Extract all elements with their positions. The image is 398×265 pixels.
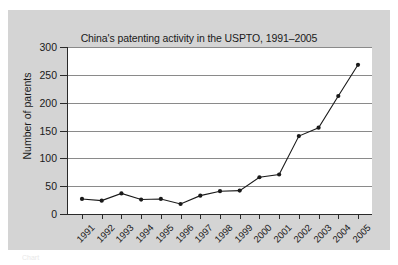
x-axis-tick-label: 2000 xyxy=(251,222,274,245)
x-axis-tick xyxy=(181,214,182,219)
data-point-marker xyxy=(218,189,222,193)
x-axis-tick-label: 2004 xyxy=(330,222,353,245)
y-axis-tick-label: 250 xyxy=(39,69,57,81)
data-point-marker xyxy=(257,175,261,179)
figure-caption: Chart xyxy=(22,254,322,261)
series-line xyxy=(82,65,358,204)
x-axis-tick xyxy=(161,214,162,219)
y-axis-tick xyxy=(60,186,67,187)
x-axis-tick-label: 1995 xyxy=(153,222,176,245)
x-axis-tick-label: 1999 xyxy=(232,222,255,245)
x-axis-tick-label: 2001 xyxy=(271,222,294,245)
x-axis-tick xyxy=(299,214,300,219)
x-axis-tick xyxy=(319,214,320,219)
y-axis-tick xyxy=(60,47,67,48)
data-point-marker xyxy=(119,191,123,195)
y-axis-tick xyxy=(60,103,67,104)
plot-area: 050100150200250300 199119921993199419951… xyxy=(67,47,372,215)
y-axis-tick-label: 50 xyxy=(45,180,57,192)
x-axis-tick-label: 1997 xyxy=(192,222,215,245)
chart-title: China's patenting activity in the USPTO,… xyxy=(8,32,390,44)
y-axis-tick-label: 0 xyxy=(51,208,57,220)
data-series-group xyxy=(68,47,372,214)
data-point-marker xyxy=(139,197,143,201)
x-axis-tick xyxy=(102,214,103,219)
x-axis-tick xyxy=(358,214,359,219)
x-axis-tick xyxy=(240,214,241,219)
x-axis-tick xyxy=(279,214,280,219)
x-axis-tick-label: 1996 xyxy=(173,222,196,245)
x-axis-tick xyxy=(220,214,221,219)
y-axis-tick xyxy=(60,75,67,76)
data-point-marker xyxy=(178,202,182,206)
y-axis-tick xyxy=(60,131,67,132)
y-axis-tick xyxy=(60,214,67,215)
data-point-marker xyxy=(277,172,281,176)
x-axis-tick xyxy=(259,214,260,219)
y-axis-tick-label: 300 xyxy=(39,41,57,53)
data-point-marker xyxy=(238,189,242,193)
y-axis-tick-label: 150 xyxy=(39,125,57,137)
data-point-marker xyxy=(336,94,340,98)
x-axis-tick-label: 2005 xyxy=(350,222,373,245)
y-axis-tick-label: 200 xyxy=(39,97,57,109)
data-point-marker xyxy=(316,126,320,130)
data-point-marker xyxy=(356,63,360,67)
data-point-marker xyxy=(297,134,301,138)
x-axis-tick xyxy=(141,214,142,219)
data-point-marker xyxy=(100,199,104,203)
data-point-marker xyxy=(198,194,202,198)
x-axis-tick-label: 1993 xyxy=(113,222,136,245)
chart-screenshot: China's patenting activity in the USPTO,… xyxy=(0,0,398,265)
x-axis-tick xyxy=(121,214,122,219)
x-axis-tick-label: 2002 xyxy=(291,222,314,245)
x-axis-tick-label: 1992 xyxy=(94,222,117,245)
x-axis-tick xyxy=(82,214,83,219)
x-axis-tick xyxy=(200,214,201,219)
y-axis-tick xyxy=(60,158,67,159)
x-axis-tick xyxy=(338,214,339,219)
data-point-marker xyxy=(80,197,84,201)
data-point-marker xyxy=(159,197,163,201)
y-axis-tick-label: 100 xyxy=(39,152,57,164)
x-axis-tick-label: 1998 xyxy=(212,222,235,245)
x-axis-tick-label: 1991 xyxy=(74,222,97,245)
figure-panel: China's patenting activity in the USPTO,… xyxy=(8,10,390,250)
plot-inner: 050100150200250300 199119921993199419951… xyxy=(68,47,372,214)
y-axis-label: Number of parents xyxy=(21,61,33,171)
x-axis-tick-label: 1994 xyxy=(133,222,156,245)
x-axis-tick-label: 2003 xyxy=(311,222,334,245)
